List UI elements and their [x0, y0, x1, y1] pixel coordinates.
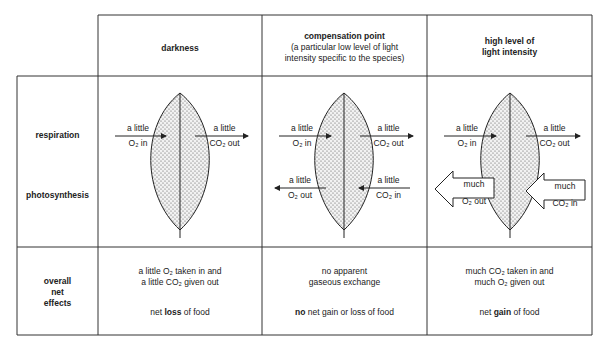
effect-high: much O₂ given out — [427, 277, 592, 288]
label: O₂ out — [454, 196, 494, 207]
column-header-high: high level of — [427, 36, 592, 47]
label: O₂ in — [118, 138, 158, 149]
label: a little — [202, 123, 247, 134]
label: a little — [366, 123, 411, 134]
label: CO₂ in — [366, 190, 411, 201]
label: a little — [366, 175, 411, 186]
label: CO₂ out — [532, 138, 577, 149]
row-label-overall: overall — [17, 276, 98, 287]
effect-darkness-food: net loss of food — [98, 307, 262, 318]
row-label-photosynthesis: photosynthesis — [17, 190, 98, 201]
column-header-compensation: compensation point — [262, 31, 427, 42]
label: O₂ in — [282, 138, 322, 149]
row-label-respiration: respiration — [17, 130, 98, 141]
label: much — [545, 181, 585, 192]
row-label-overall: effects — [17, 298, 98, 309]
effect-darkness: a little CO₂ given out — [98, 277, 262, 288]
leaf-icon — [315, 93, 374, 238]
label: a little — [280, 175, 320, 186]
effect-darkness: a little O₂ taken in and — [98, 266, 262, 277]
effect-high-food: net gain of food — [427, 307, 592, 318]
label: O₂ out — [280, 190, 320, 201]
label: O₂ in — [447, 138, 487, 149]
effect-high: much CO₂ taken in and — [427, 266, 592, 277]
column-header-darkness: darkness — [98, 43, 262, 54]
effect-compensation: gaseous exchange — [262, 277, 427, 288]
effect-compensation: no apparent — [262, 266, 427, 277]
leaf-icon — [481, 93, 540, 238]
column-header-subtitle: intensity specific to the species) — [262, 53, 427, 64]
label: CO₂ out — [366, 138, 411, 149]
label: a little — [118, 123, 158, 134]
column-header-high: light intensity — [427, 47, 592, 58]
row-label-overall: net — [17, 287, 98, 298]
label: CO₂ out — [202, 138, 247, 149]
effect-compensation-food: no net gain or loss of food — [262, 307, 427, 318]
column-header-subtitle: (a particular low level of light — [262, 42, 427, 53]
label: a little — [447, 123, 487, 134]
label: much — [454, 179, 494, 190]
leaf-icon — [151, 93, 210, 238]
label: a little — [532, 123, 577, 134]
label: CO₂ in — [545, 198, 585, 209]
label: a little — [282, 123, 322, 134]
